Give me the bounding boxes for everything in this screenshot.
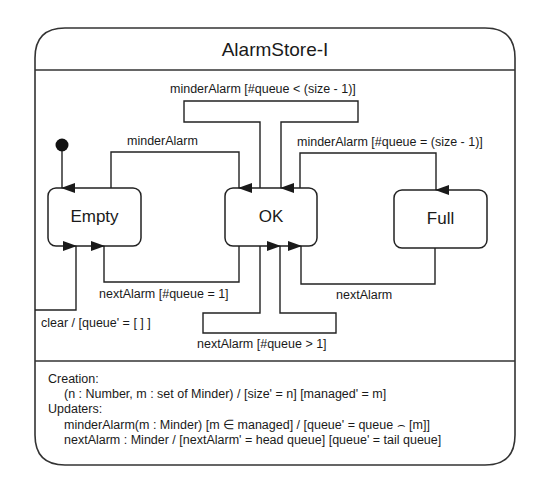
edge-clear-to-empty (35, 246, 76, 310)
initial-state-dot (56, 139, 69, 152)
spec-updaters-heading: Updaters: (48, 402, 102, 417)
label-empty-to-ok: minderAlarm (127, 135, 198, 148)
edge-ok-to-empty (104, 246, 239, 282)
edge-full-to-ok (301, 246, 435, 284)
diagram-title: AlarmStore-I (0, 40, 543, 59)
spec-updater-minderalarm: minderAlarm(m : Minder) [m ∈ managed] / … (64, 418, 430, 433)
label-ok-to-empty: nextAlarm [#queue = 1] (99, 288, 229, 301)
label-full-to-ok: nextAlarm (336, 289, 392, 302)
edge-ok-to-full (300, 153, 436, 190)
label-ok-self-top: minderAlarm [#queue < (size - 1)] (170, 83, 356, 96)
spec-updater-nextalarm: nextAlarm : Minder / [nextAlarm' = head … (64, 433, 441, 448)
label-ok-to-full: minderAlarm [#queue = (size - 1)] (297, 136, 483, 149)
state-ok-label: OK (225, 208, 317, 225)
state-empty-label: Empty (48, 208, 141, 225)
label-clear: clear / [queue' = [ ] ] (41, 317, 151, 330)
edge-empty-to-ok (111, 152, 239, 188)
state-full-label: Full (394, 210, 487, 227)
spec-creation-line: (n : Number, m : set of Minder) / [size'… (64, 387, 386, 402)
label-ok-self-bottom: nextAlarm [#queue > 1] (197, 338, 327, 351)
spec-creation-heading: Creation: (48, 372, 99, 387)
